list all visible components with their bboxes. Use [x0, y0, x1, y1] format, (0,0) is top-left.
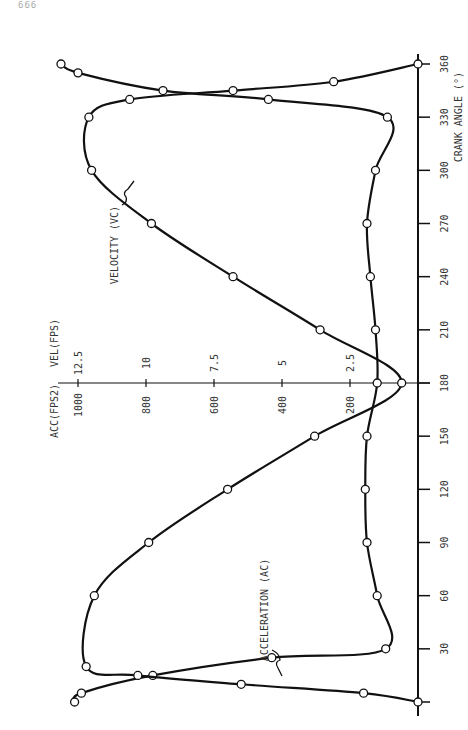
data-point: [74, 69, 82, 77]
x-tick-label: 60: [439, 590, 450, 602]
data-point: [88, 166, 96, 174]
data-point: [383, 113, 391, 121]
data-point: [398, 379, 406, 387]
data-point: [85, 113, 93, 121]
crank-angle-chart: 306090120150180210240270300330360CRANK A…: [0, 0, 468, 730]
acceleration-label: ACCELERATION (AC): [259, 559, 270, 661]
data-point: [316, 326, 324, 334]
data-point: [264, 95, 272, 103]
vel-tick-label: 12.5: [73, 351, 84, 375]
x-tick-label: 120: [439, 480, 450, 498]
acc-tick-label: 600: [209, 396, 220, 414]
x-tick-label: 360: [439, 55, 450, 73]
acc-tick-label: 1000: [73, 393, 84, 417]
x-tick-label: 240: [439, 268, 450, 286]
data-point: [363, 432, 371, 440]
acc-tick-label: 200: [345, 396, 356, 414]
data-point: [82, 663, 90, 671]
acc-tick-label: 400: [277, 396, 288, 414]
x-tick-label: 90: [439, 536, 450, 548]
data-point: [414, 698, 422, 706]
data-point: [134, 671, 142, 679]
data-point: [373, 379, 381, 387]
data-point: [361, 485, 369, 493]
x-tick-label: 30: [439, 643, 450, 655]
data-point: [382, 645, 390, 653]
data-point: [57, 60, 65, 68]
vel-tick-label: 10: [141, 357, 152, 369]
data-point: [126, 95, 134, 103]
x-tick-label: 330: [439, 108, 450, 126]
vel-tick-label: 2.5: [345, 354, 356, 372]
vel-tick-label: 7.5: [209, 354, 220, 372]
x-tick-label: 270: [439, 214, 450, 232]
labels: 306090120150180210240270300330360CRANK A…: [49, 55, 464, 676]
data-point: [373, 592, 381, 600]
vel-tick-label: 5: [277, 360, 288, 366]
data-point: [237, 680, 245, 688]
data-point: [372, 166, 380, 174]
data-point: [311, 432, 319, 440]
x-tick-label: 210: [439, 321, 450, 339]
data-point: [224, 485, 232, 493]
data-point: [90, 592, 98, 600]
x-tick-label: 300: [439, 161, 450, 179]
velocity-label: VELOCITY (VC): [109, 206, 120, 284]
data-point: [366, 273, 374, 281]
data-point: [145, 539, 153, 547]
acc-tick-label: 800: [141, 396, 152, 414]
data-point: [71, 698, 79, 706]
data-point: [360, 689, 368, 697]
data-point: [363, 220, 371, 228]
acc-axis-title: ACC(FPS2): [49, 384, 60, 438]
data-point: [363, 539, 371, 547]
data-point: [372, 326, 380, 334]
data-point: [330, 78, 338, 86]
data-point: [77, 689, 85, 697]
data-point: [414, 60, 422, 68]
data-point: [229, 87, 237, 95]
x-tick-label: 180: [439, 374, 450, 392]
data-point: [147, 220, 155, 228]
vel-axis-title: VEL(FPS): [49, 319, 60, 367]
data-point: [229, 273, 237, 281]
x-tick-label: 150: [439, 427, 450, 445]
x-axis-title: CRANK ANGLE (°): [453, 72, 464, 162]
data-point: [159, 87, 167, 95]
